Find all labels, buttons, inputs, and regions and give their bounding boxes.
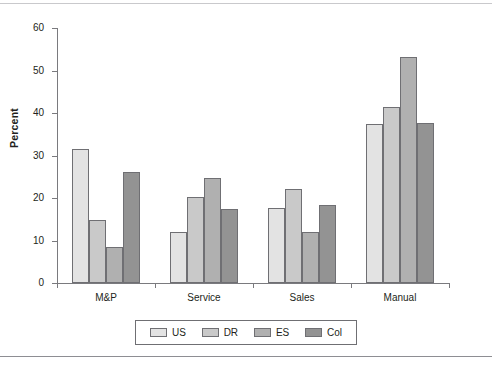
bar	[366, 124, 383, 283]
bar	[170, 232, 187, 283]
bar	[400, 57, 417, 283]
legend-swatch-icon	[202, 328, 219, 337]
legend-swatch-icon	[150, 328, 167, 337]
legend-item[interactable]: DR	[202, 328, 238, 338]
chart-figure: Percent 0102030405060 M&PServiceSalesMan…	[0, 0, 492, 371]
y-axis-tick: 60	[52, 28, 57, 29]
legend-item-label: US	[172, 328, 186, 338]
y-axis-tick: 10	[52, 241, 57, 242]
legend-swatch-icon	[254, 328, 271, 337]
bar	[417, 123, 434, 283]
legend-item[interactable]: Col	[305, 328, 342, 338]
y-axis-tick: 30	[52, 156, 57, 157]
y-axis-tick-label: 40	[33, 108, 44, 118]
bar	[72, 149, 89, 283]
y-axis-tick: 40	[52, 113, 57, 114]
y-axis-tick: 20	[52, 198, 57, 199]
bar	[285, 189, 302, 283]
y-axis-tick-label: 60	[33, 23, 44, 33]
x-axis-category-label: Manual	[384, 292, 417, 304]
plot-area: 0102030405060 M&PServiceSalesManual	[57, 28, 449, 283]
bar	[106, 247, 123, 283]
x-axis-category-label: Sales	[289, 292, 314, 304]
bar	[319, 205, 336, 283]
chart-legend: US DR ES Col	[135, 320, 357, 345]
y-axis-tick-label: 0	[38, 278, 44, 288]
y-axis-title: Percent	[8, 108, 20, 148]
legend-item-label: ES	[276, 328, 289, 338]
bar	[123, 172, 140, 283]
top-divider-rule	[0, 3, 492, 4]
y-axis-tick: 50	[52, 71, 57, 72]
bar	[302, 232, 319, 283]
y-axis-tick-label: 20	[33, 193, 44, 203]
bar	[383, 107, 400, 283]
bottom-divider-rule	[0, 356, 492, 357]
bar	[268, 208, 285, 283]
y-axis-tick-label: 10	[33, 236, 44, 246]
legend-item-label: Col	[327, 328, 342, 338]
x-axis-tick	[449, 283, 450, 288]
legend-item[interactable]: ES	[254, 328, 289, 338]
y-axis-line	[57, 28, 58, 284]
bar	[204, 178, 221, 283]
bar	[187, 197, 204, 283]
y-axis-tick-label: 30	[33, 151, 44, 161]
x-axis-category-label: M&P	[95, 292, 117, 304]
legend-item-label: DR	[224, 328, 238, 338]
x-axis-category-label: Service	[187, 292, 220, 304]
x-axis-tick	[57, 283, 58, 288]
x-axis-tick	[351, 283, 352, 288]
legend-item[interactable]: US	[150, 328, 186, 338]
legend-swatch-icon	[305, 328, 322, 337]
x-axis-tick	[155, 283, 156, 288]
y-axis-tick-label: 50	[33, 66, 44, 76]
bar	[89, 220, 106, 283]
x-axis-tick	[253, 283, 254, 288]
bar	[221, 209, 238, 283]
